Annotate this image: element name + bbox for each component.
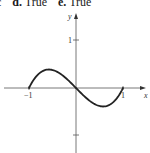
y-axis-arrow-icon <box>74 13 78 19</box>
y-axis-label: y <box>67 12 72 21</box>
x-axis-arrow-icon <box>140 86 146 90</box>
function-graph: y 1 −1 1 x <box>0 0 150 153</box>
y-tick-label-1: 1 <box>68 36 72 45</box>
x-tick-label-neg1: −1 <box>24 91 33 100</box>
x-axis-label: x <box>143 91 148 100</box>
